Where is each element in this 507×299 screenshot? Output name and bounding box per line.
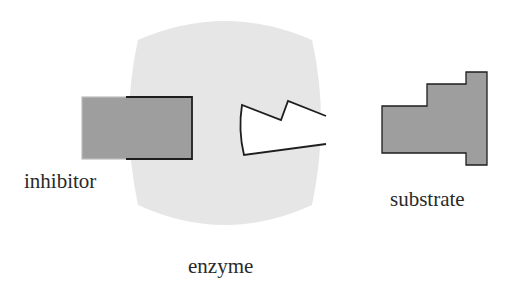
inhibitor-shape <box>82 97 192 159</box>
inhibitor-label: inhibitor <box>24 171 96 192</box>
enzyme-label: enzyme <box>188 256 253 277</box>
substrate-label: substrate <box>390 189 465 210</box>
diagram-canvas <box>0 0 507 299</box>
substrate-shape <box>382 72 487 165</box>
